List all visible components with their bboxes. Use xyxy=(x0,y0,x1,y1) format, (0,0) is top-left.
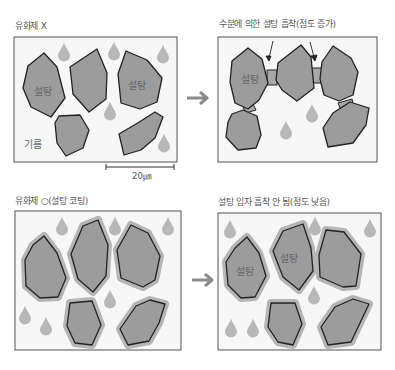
panel-no-adsorption: 설탕 설탕 xyxy=(218,213,381,350)
sugar-label: 설탕 xyxy=(128,80,146,91)
sugar-label: 설탕 xyxy=(280,253,298,264)
diagram-svg: 설탕 설탕 기름 20㎛ xyxy=(0,0,395,370)
diagram: 유화제 X 수분에 의한 설탕 흡착(점도 증가) 유화제 ○(설탕 코팅) 설… xyxy=(0,0,395,370)
sugar-label: 설탕 xyxy=(241,74,259,85)
sugar-label: 설탕 xyxy=(236,266,254,277)
arrow-right-icon xyxy=(192,274,212,286)
scale-bar xyxy=(106,164,174,170)
panel-with-emulsifier xyxy=(15,211,181,350)
sugar-label: 설탕 xyxy=(34,86,52,97)
oil-label: 기름 xyxy=(24,139,42,150)
arrow-right-icon xyxy=(187,92,207,104)
scale-bar-label: 20㎛ xyxy=(132,171,152,182)
panel-water-adsorption: 설탕 xyxy=(218,37,377,162)
panel-no-emulsifier: 설탕 설탕 기름 20㎛ xyxy=(14,37,177,182)
